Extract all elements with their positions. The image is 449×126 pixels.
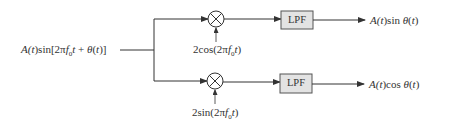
top-oscillator-label: 2cos(2πf0t) <box>193 43 241 60</box>
bottom-oscillator-label: 2sin(2πf0t) <box>192 106 238 123</box>
input-sin: )sin[2π <box>34 43 65 55</box>
bottom-osc-close: ) <box>235 106 239 118</box>
top-output-label: A(t)sin θ(t) <box>370 14 419 26</box>
input-a: A( <box>21 43 31 55</box>
top-lpf-label: LPF <box>281 11 313 29</box>
top-osc-pre: 2cos(2π <box>193 43 228 55</box>
input-close: )] <box>99 43 106 55</box>
bottom-output-label: A(t)cos θ(t) <box>369 78 419 90</box>
top-out-a: A( <box>370 14 380 26</box>
bottom-lpf-label: LPF <box>280 74 312 92</box>
input-signal-label: A(t)sin[2πf0t + θ(t)] <box>21 43 106 60</box>
bottom-out-cos: )cos <box>382 78 403 90</box>
bottom-out-a: A( <box>369 78 379 90</box>
top-out-close: ) <box>415 14 419 26</box>
top-osc-close: ) <box>238 43 242 55</box>
top-out-sin: )sin <box>383 14 402 26</box>
bottom-mixer <box>207 73 223 89</box>
bottom-out-close: ) <box>416 78 420 90</box>
top-mixer <box>208 11 224 27</box>
input-plus: + <box>75 43 87 55</box>
bottom-osc-pre: 2sin(2π <box>192 106 225 118</box>
